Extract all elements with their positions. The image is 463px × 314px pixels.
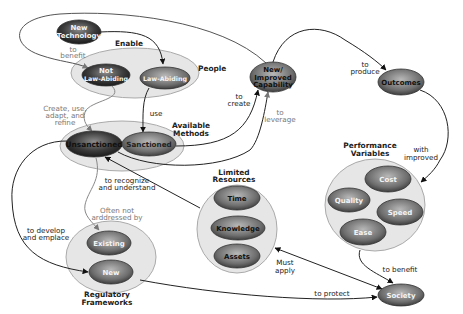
svg-text:Assets: Assets <box>224 253 250 261</box>
svg-text:Knowledge: Knowledge <box>216 225 260 233</box>
node-new-technology[interactable]: New Technology <box>57 20 102 44</box>
svg-text:New: New <box>102 269 120 277</box>
regulatory-frameworks-label-2: Frameworks <box>82 298 133 307</box>
with-improved-label-2: improved <box>404 153 438 162</box>
node-ease[interactable]: Ease <box>340 219 386 245</box>
available-methods-label-2: Methods <box>173 129 210 138</box>
node-outcomes[interactable]: Outcomes <box>378 69 424 95</box>
performance-variables-label-2: Variables <box>351 149 390 158</box>
node-new-framework[interactable]: New <box>89 260 133 284</box>
svg-text:Sanctioned: Sanctioned <box>126 140 171 149</box>
often-not-label-2: arddressed by <box>91 213 143 222</box>
node-existing[interactable]: Existing <box>87 231 131 255</box>
svg-text:Law-Abiding: Law-Abiding <box>84 75 128 83</box>
svg-text:Existing: Existing <box>93 240 125 248</box>
node-cost[interactable]: Cost <box>365 166 411 192</box>
create-use-label-3: refine <box>55 118 76 127</box>
use-label: use <box>150 109 163 118</box>
to-produce-label-2: produce <box>350 67 380 76</box>
svg-text:Speed: Speed <box>388 209 413 217</box>
svg-text:Society: Society <box>386 292 415 300</box>
svg-text:Quality: Quality <box>335 197 364 205</box>
node-time[interactable]: Time <box>214 186 260 210</box>
svg-text:Unsanctioned: Unsanctioned <box>66 140 123 149</box>
to-leverage-label-2: leverage <box>264 115 296 124</box>
svg-text:Outcomes: Outcomes <box>381 79 420 87</box>
node-assets[interactable]: Assets <box>214 244 260 268</box>
node-new-improved-capability[interactable]: New/ Improved Capability <box>250 62 296 92</box>
svg-text:Ease: Ease <box>354 229 373 237</box>
to-benefit-top-label-2: benefit <box>60 51 85 60</box>
node-not-law-abiding[interactable]: Not Law-Abiding <box>82 64 130 86</box>
node-law-abiding[interactable]: Law-Abiding <box>140 67 190 89</box>
people-label: People <box>198 64 226 73</box>
to-develop-label-2: and emplace <box>23 233 70 242</box>
enable-label: Enable <box>115 39 143 48</box>
svg-text:Technology: Technology <box>57 32 102 40</box>
to-benefit-society-label: to benefit <box>383 265 418 274</box>
svg-text:New/: New/ <box>263 66 283 74</box>
svg-text:New: New <box>70 24 88 32</box>
svg-text:Time: Time <box>227 195 246 203</box>
node-quality[interactable]: Quality <box>328 188 370 212</box>
must-apply-label-2: apply <box>275 266 296 275</box>
concept-diagram: New Technology Not Law-Abiding Law-Abidi… <box>0 0 463 314</box>
edge-with-improved <box>420 90 448 182</box>
edge-to-produce <box>273 29 386 70</box>
node-society[interactable]: Society <box>378 284 424 306</box>
node-unsanctioned[interactable]: Unsanctioned <box>66 131 123 157</box>
svg-text:Not: Not <box>99 67 114 75</box>
svg-text:Capability: Capability <box>253 81 293 89</box>
node-sanctioned[interactable]: Sanctioned <box>122 132 176 156</box>
svg-text:Law-Abiding: Law-Abiding <box>143 75 187 83</box>
to-protect-label: to protect <box>314 289 349 298</box>
limited-resources-label-2: Resources <box>213 175 256 184</box>
to-create-label-2: create <box>228 99 251 108</box>
node-knowledge[interactable]: Knowledge <box>211 216 265 240</box>
to-recognize-label-2: and understand <box>99 183 156 192</box>
svg-text:Cost: Cost <box>379 176 397 184</box>
node-speed[interactable]: Speed <box>377 199 423 225</box>
